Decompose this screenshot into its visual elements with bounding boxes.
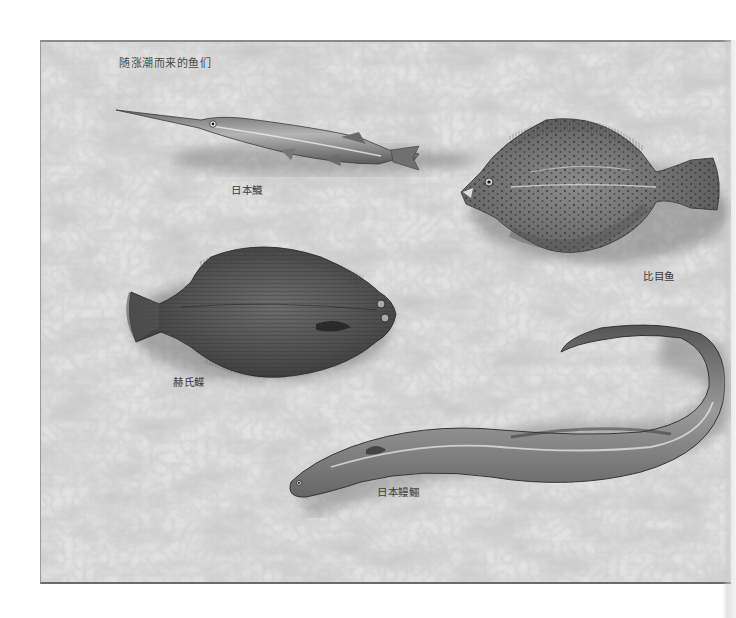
hers-flounder-label: 赫氏鲽 bbox=[173, 374, 205, 389]
illustration-frame: 随涨潮而来的鱼们 日本鱵 比目鱼 赫氏鲽 日本鳗鲡 bbox=[40, 40, 731, 584]
needlefish-label: 日本鱵 bbox=[231, 182, 263, 197]
spotted-flounder-label: 比目鱼 bbox=[643, 268, 675, 283]
seabed-texture bbox=[41, 42, 731, 582]
eel-label: 日本鳗鲡 bbox=[377, 484, 419, 499]
page-edge-shadow bbox=[722, 40, 736, 618]
figure-title: 随涨潮而来的鱼们 bbox=[119, 54, 211, 70]
